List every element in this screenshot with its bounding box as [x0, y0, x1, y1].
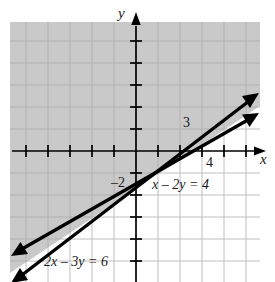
y-intercept-negative-2-label: –2: [111, 176, 125, 190]
x-intercept-4-label: 4: [206, 156, 213, 170]
graph-figure: y x 3 4 –2 x – 2y = 4 2x – 3y = 6: [0, 0, 275, 282]
y-axis-label: y: [118, 6, 125, 21]
equation-label-2x-minus-3y-equals-6: 2x – 3y = 6: [44, 255, 108, 269]
equation-label-x-minus-2y-equals-4: x – 2y = 4: [152, 178, 209, 192]
coordinate-plane-svg: [0, 0, 275, 282]
x-axis-label: x: [260, 152, 267, 167]
x-intercept-3-label: 3: [183, 116, 190, 130]
